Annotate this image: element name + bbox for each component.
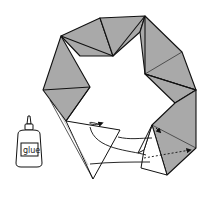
- origami-diagram: glue: [0, 0, 209, 201]
- glue-label: glue: [23, 146, 40, 155]
- gray-ring-units: [43, 16, 196, 175]
- glue-bottle-icon: glue: [16, 116, 42, 167]
- diagram-canvas: glue: [0, 0, 209, 201]
- rotate-arrow: [90, 122, 102, 125]
